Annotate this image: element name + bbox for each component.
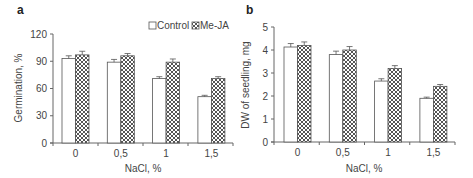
panel-b-bars: [284, 42, 447, 142]
y-tick-label: 90: [36, 56, 48, 67]
y-tick-label: 1: [262, 114, 268, 125]
bar-meja: [166, 62, 180, 143]
legend-meja-swatch: [192, 22, 199, 29]
bar-control: [329, 55, 343, 142]
legend-control-swatch: [149, 22, 156, 29]
legend-control-label: Control: [157, 20, 189, 31]
y-tick-label: 5: [262, 22, 268, 33]
y-tick-label: 60: [36, 83, 48, 94]
y-tick-label: 0: [41, 138, 47, 149]
x-tick-label: 0,5: [114, 148, 128, 159]
bar-meja: [298, 45, 312, 142]
x-tick-label: 1: [385, 147, 391, 158]
x-tick-label: 1,5: [204, 148, 218, 159]
bar-control: [107, 62, 121, 143]
y-tick-label: 3: [262, 68, 268, 79]
bar-meja: [76, 55, 90, 143]
bar-control: [62, 59, 76, 143]
y-tick-label: 30: [36, 110, 48, 121]
x-tick-label: 0: [73, 148, 79, 159]
panel-a: a 030609012000,511,5 NaCl, % Germination…: [13, 3, 233, 174]
bar-control: [153, 79, 167, 143]
legend-meja-label: Me-JA: [200, 20, 229, 31]
panel-letter-a: a: [17, 3, 24, 17]
x-tick-label: 1: [163, 148, 169, 159]
panel-b-x-axis-title: NaCl, %: [346, 163, 383, 174]
bar-control: [198, 97, 212, 143]
bar-meja: [211, 79, 225, 143]
x-tick-label: 0,5: [336, 147, 350, 158]
figure: a 030609012000,511,5 NaCl, % Germination…: [0, 0, 473, 178]
bar-meja: [433, 86, 447, 142]
panel-a-bars: [62, 51, 225, 143]
y-tick-label: 120: [30, 29, 47, 40]
bar-control: [284, 47, 298, 142]
panel-b: b 01234500,511,5 NaCl, % DW of seedling,…: [240, 3, 455, 174]
y-tick-label: 4: [262, 45, 268, 56]
panel-letter-b: b: [246, 3, 253, 17]
panel-b-y-axis-title: DW of seedling, mg: [240, 41, 251, 128]
legend: Control Me-JA: [149, 20, 229, 31]
bar-meja: [121, 56, 135, 143]
x-tick-label: 0: [295, 147, 301, 158]
bar-meja: [388, 68, 402, 142]
panel-a-y-axis-title: Germination, %: [13, 53, 24, 122]
y-tick-label: 0: [262, 137, 268, 148]
bar-control: [420, 98, 434, 142]
bar-control: [375, 81, 389, 142]
panel-a-x-axis-title: NaCl, %: [125, 163, 162, 174]
bar-meja: [343, 50, 357, 142]
x-tick-label: 1,5: [426, 147, 440, 158]
y-tick-label: 2: [262, 91, 268, 102]
